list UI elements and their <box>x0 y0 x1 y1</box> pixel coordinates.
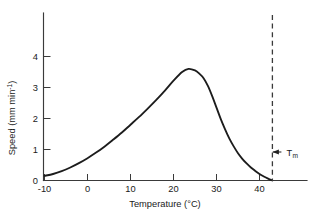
y-axis-title-group: Speed (mm min-1) <box>6 81 17 156</box>
x-tick-label-40: 40 <box>254 184 264 194</box>
t-max-sublabel: m <box>292 152 298 159</box>
y-tick-label-2: 2 <box>33 114 38 124</box>
chart-canvas: 0 1 2 3 4 -10 0 10 20 30 40 <box>0 0 317 214</box>
x-tick-label-20: 20 <box>168 184 178 194</box>
y-axis-title-close: ) <box>7 81 17 84</box>
x-tick-label-neg10: -10 <box>38 184 51 194</box>
x-axis-title: Temperature (°C) <box>129 199 200 209</box>
y-tick-labels: 0 1 2 3 4 <box>33 52 38 186</box>
x-tick-label-0: 0 <box>85 184 90 194</box>
y-tick-marks <box>44 57 51 181</box>
speed-temperature-curve <box>45 69 273 181</box>
t-max-arrow-head <box>272 149 279 154</box>
y-tick-label-4: 4 <box>33 52 38 62</box>
y-axis-title: Speed (mm min-1) <box>6 81 17 156</box>
t-max-label-group: T m <box>286 148 298 160</box>
axes-group <box>44 13 308 181</box>
chart-figure: 0 1 2 3 4 -10 0 10 20 30 40 <box>0 0 317 214</box>
x-tick-marks <box>45 174 260 181</box>
x-tick-label-10: 10 <box>125 184 135 194</box>
y-tick-label-3: 3 <box>33 83 38 93</box>
y-tick-label-1: 1 <box>33 145 38 155</box>
x-tick-labels: -10 0 10 20 30 40 <box>38 184 265 194</box>
x-tick-label-30: 30 <box>211 184 221 194</box>
t-max-arrow <box>272 149 281 154</box>
y-axis-title-main: Speed (mm min <box>7 90 17 156</box>
